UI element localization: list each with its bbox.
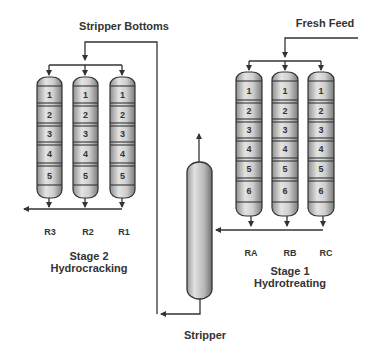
stage1-title: Stage 1	[270, 265, 309, 278]
svg-text:3: 3	[47, 129, 52, 139]
reactor-label-rb: RB	[284, 248, 297, 258]
svg-text:3: 3	[318, 125, 323, 135]
svg-text:1: 1	[83, 90, 88, 100]
svg-text:4: 4	[120, 149, 125, 159]
stripper-vessel	[187, 134, 212, 299]
svg-text:3: 3	[246, 125, 251, 135]
stage1-reactors: 1 2 3 4 5 6 1 2 3 4 5 6	[236, 72, 334, 216]
svg-text:2: 2	[47, 110, 52, 120]
svg-text:6: 6	[318, 186, 323, 196]
reactor-rb: 1 2 3 4 5 6	[272, 72, 298, 216]
svg-text:2: 2	[246, 106, 251, 116]
reactor-label-r3: R3	[44, 227, 56, 237]
svg-text:2: 2	[318, 106, 323, 116]
reactor-label-rc: RC	[320, 248, 333, 258]
stripper-label: Stripper	[184, 329, 226, 342]
svg-text:5: 5	[83, 171, 88, 181]
fresh-feed-line	[249, 38, 358, 70]
reactor-label-r1: R1	[118, 227, 130, 237]
reactor-ra: 1 2 3 4 5 6	[236, 72, 262, 216]
fresh-feed-label: Fresh Feed	[296, 17, 355, 30]
stage1-subtitle: Hydrotreating	[254, 277, 326, 290]
svg-text:1: 1	[282, 86, 287, 96]
svg-text:1: 1	[47, 90, 52, 100]
svg-text:5: 5	[318, 164, 323, 174]
svg-text:3: 3	[120, 129, 125, 139]
svg-text:4: 4	[83, 149, 88, 159]
svg-text:5: 5	[246, 164, 251, 174]
svg-text:4: 4	[47, 149, 52, 159]
reactor-r2: 1 2 3 4 5	[73, 77, 98, 198]
svg-text:2: 2	[282, 106, 287, 116]
stage2-title: Stage 2	[69, 250, 108, 263]
reactor-r3: 1 2 3 4 5	[37, 77, 62, 198]
svg-text:4: 4	[318, 144, 323, 154]
svg-text:2: 2	[83, 110, 88, 120]
stage2-outlet-line	[24, 198, 122, 209]
reactor-r1: 1 2 3 4 5	[110, 77, 135, 198]
svg-text:1: 1	[246, 86, 251, 96]
reactor-rc: 1 2 3 4 5 6	[308, 72, 334, 216]
reactor-label-r2: R2	[82, 227, 94, 237]
process-flow-diagram: 1 2 3 4 5 1 2 3 4 5	[0, 0, 375, 358]
svg-text:2: 2	[120, 110, 125, 120]
svg-text:3: 3	[282, 125, 287, 135]
svg-text:6: 6	[282, 186, 287, 196]
stripper-bottoms-label: Stripper Bottoms	[79, 20, 169, 33]
reactor-label-ra: RA	[245, 248, 258, 258]
svg-text:5: 5	[282, 164, 287, 174]
stage1-outlet-line	[216, 216, 323, 230]
svg-text:1: 1	[120, 90, 125, 100]
svg-text:3: 3	[83, 129, 88, 139]
svg-text:6: 6	[246, 186, 251, 196]
svg-text:1: 1	[318, 86, 323, 96]
svg-text:4: 4	[282, 144, 287, 154]
stage2-subtitle: Hydrocracking	[50, 262, 127, 275]
svg-text:5: 5	[120, 171, 125, 181]
stage2-reactors: 1 2 3 4 5 1 2 3 4 5	[37, 77, 135, 198]
svg-text:5: 5	[47, 171, 52, 181]
svg-text:4: 4	[246, 144, 251, 154]
